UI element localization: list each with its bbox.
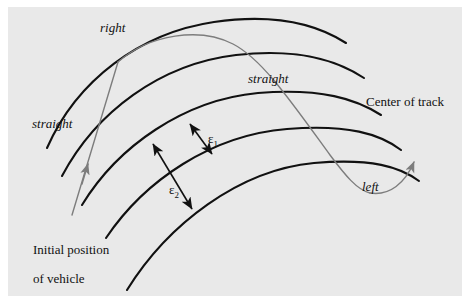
label-left: left [362,180,379,195]
initial-position-line-1: Initial position [33,242,109,257]
label-straight-middle: straight [248,72,288,87]
label-straight-left: straight [32,117,72,132]
label-epsilon-1: ε1 [195,117,218,163]
epsilon-1-subscript: 1 [213,138,218,148]
label-epsilon-2: ε2 [156,168,179,214]
track-arc-center [82,92,381,205]
label-right: right [100,21,125,36]
figure-container: right straight straight Center of track … [0,0,470,303]
epsilon-2-subscript: 2 [174,189,179,199]
label-center-of-track: Center of track [366,95,444,110]
trajectory-initial-straight [72,62,118,215]
initial-position-line-2: of vehicle [33,271,85,286]
trajectory-start-arrowhead [82,164,88,184]
label-initial-position-of-vehicle: Initial position of vehicle [20,228,109,301]
track-arc-4 [106,128,401,238]
